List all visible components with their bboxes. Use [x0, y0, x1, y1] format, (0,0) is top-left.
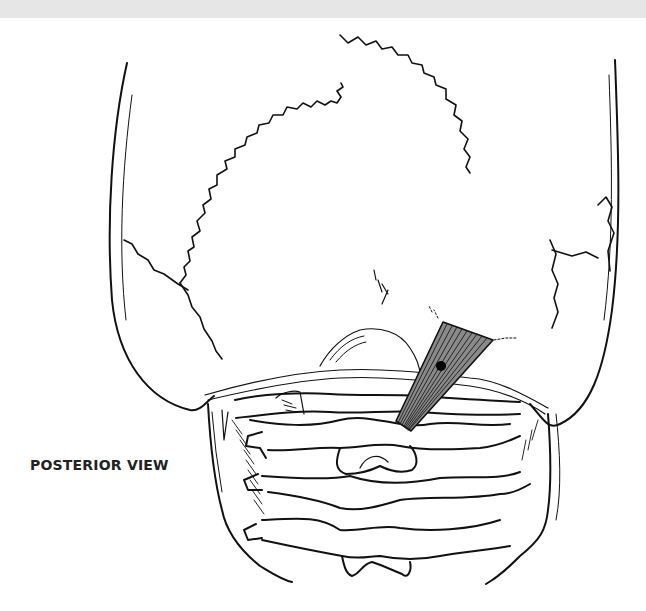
anatomical-illustration: [0, 0, 646, 611]
cervical-vertebrae: [235, 391, 530, 576]
cranial-sutures: [124, 35, 614, 359]
view-label: POSTERIOR VIEW: [30, 457, 169, 473]
skull-outline: [110, 60, 619, 426]
trigger-point-marker: [436, 361, 446, 371]
occipital-detail: [205, 270, 548, 414]
highlighted-muscle: [396, 306, 516, 431]
